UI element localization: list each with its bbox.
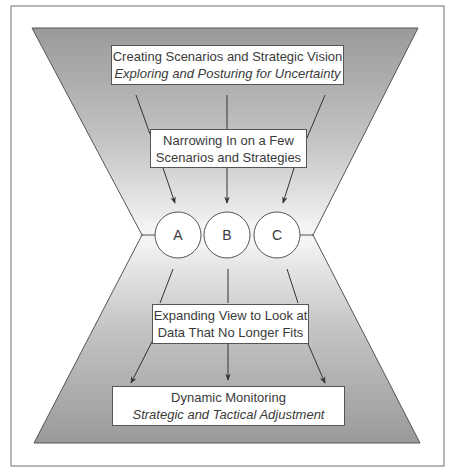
scenario-label-b: B (205, 213, 249, 257)
narrow-box: Narrowing In on a Few Scenarios and Stra… (150, 129, 307, 168)
top-box-title: Creating Scenarios and Strategic Vision (112, 48, 343, 65)
bottom-box-subtitle: Strategic and Tactical Adjustment (113, 406, 344, 423)
expand-box-line1: Expanding View to Look at (153, 307, 308, 324)
bottom-box: Dynamic Monitoring Strategic and Tactica… (112, 386, 345, 426)
narrow-box-line2: Scenarios and Strategies (151, 149, 306, 166)
expand-box-line2: Data That No Longer Fits (153, 324, 308, 341)
diagram-canvas: Creating Scenarios and Strategic Vision … (0, 0, 453, 470)
scenario-label-a: A (156, 213, 200, 257)
top-box-subtitle: Exploring and Posturing for Uncertainty (112, 65, 343, 82)
bottom-box-title: Dynamic Monitoring (113, 389, 344, 406)
expand-box: Expanding View to Look at Data That No L… (152, 304, 309, 344)
narrow-box-line1: Narrowing In on a Few (151, 132, 306, 149)
scenario-label-c: C (255, 213, 299, 257)
top-box: Creating Scenarios and Strategic Vision … (111, 45, 344, 85)
